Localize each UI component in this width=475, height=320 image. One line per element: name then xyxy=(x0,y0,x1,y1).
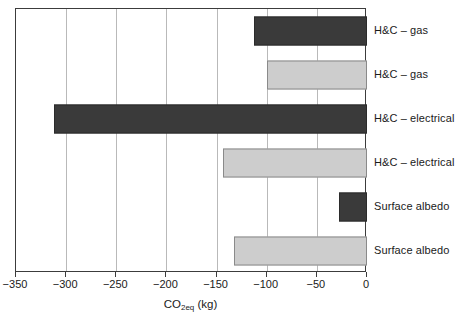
tick-mark xyxy=(366,272,367,277)
bar-chart-figure: H&C – gasH&C – gasH&C – electricalH&C – … xyxy=(0,0,475,320)
x-axis-label: CO2eq (kg) xyxy=(15,298,366,310)
category-label: H&C – electrical xyxy=(374,96,454,140)
bar[interactable] xyxy=(254,17,367,46)
x-axis-label-unit: (kg) xyxy=(194,298,217,310)
bar-row xyxy=(16,9,365,53)
category-label: H&C – gas xyxy=(374,52,428,96)
bar-row xyxy=(16,185,365,229)
bar[interactable] xyxy=(267,61,367,90)
bar[interactable] xyxy=(234,237,367,266)
bar[interactable] xyxy=(223,149,367,178)
x-axis-label-subscript: 2eq xyxy=(181,303,194,312)
category-label: H&C – gas xyxy=(374,8,428,52)
bar-row xyxy=(16,141,365,185)
tick-label: 0 xyxy=(336,278,396,290)
category-label: H&C – electrical xyxy=(374,140,454,184)
bar[interactable] xyxy=(54,105,367,134)
bar-row xyxy=(16,53,365,97)
bar[interactable] xyxy=(339,193,367,222)
bar-row xyxy=(16,229,365,273)
bar-row xyxy=(16,97,365,141)
tick-mark xyxy=(15,272,16,277)
x-axis-label-base: CO xyxy=(164,298,181,310)
tick-mark xyxy=(65,272,66,277)
tick-mark xyxy=(266,272,267,277)
tick-mark xyxy=(316,272,317,277)
tick-mark xyxy=(216,272,217,277)
category-label: Surface albedo xyxy=(374,228,449,272)
plot-area xyxy=(15,8,366,272)
tick-mark xyxy=(115,272,116,277)
category-label: Surface albedo xyxy=(374,184,449,228)
tick-mark xyxy=(165,272,166,277)
